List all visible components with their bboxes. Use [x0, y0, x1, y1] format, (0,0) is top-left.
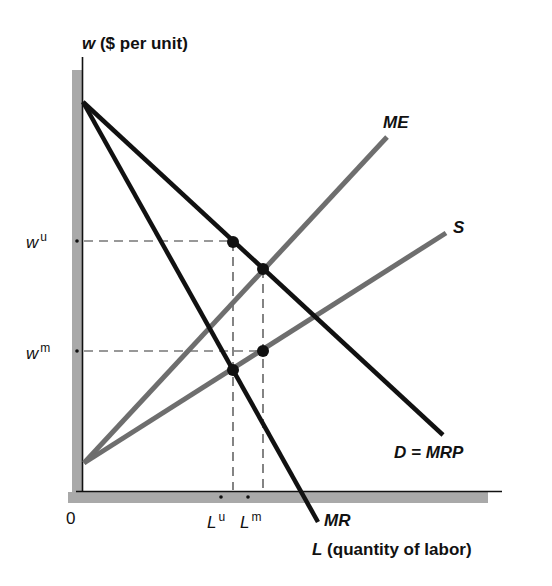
d-mrp-label: D = MRP	[394, 443, 463, 463]
mr-label: MR	[324, 511, 350, 531]
x-axis-shadow	[68, 492, 488, 503]
point-monopsony-wage	[257, 345, 269, 357]
y-axis-shadow	[72, 70, 82, 503]
x-axis-title: L (quantity of labor)	[312, 540, 472, 560]
point-union-wage	[227, 236, 239, 248]
y-axis-units: ($ per unit)	[95, 34, 188, 53]
s-label: S	[453, 218, 464, 238]
y-tick-wm: wm	[26, 341, 50, 364]
wu-base: w	[26, 233, 38, 252]
x-tick-lm: Lm	[240, 510, 261, 533]
y-axis-title: w ($ per unit)	[82, 34, 188, 54]
mr-curve	[83, 102, 318, 522]
chart-canvas	[0, 0, 552, 586]
wm-sup: m	[40, 341, 50, 355]
y-axis-var: w	[82, 34, 95, 53]
y-tick-wu: wu	[26, 230, 47, 253]
tick-dots	[75, 239, 250, 499]
point-mr-s	[227, 364, 239, 376]
wm-base: w	[26, 344, 38, 363]
point-mrp-me	[257, 263, 269, 275]
lu-sup: u	[218, 510, 225, 524]
lm-sup: m	[251, 510, 261, 524]
lm-base: L	[240, 513, 249, 532]
wu-sup: u	[40, 230, 47, 244]
x-axis-var: L	[312, 540, 322, 559]
lu-base: L	[207, 513, 216, 532]
x-tick-lu: Lu	[207, 510, 225, 533]
x-axis-units: (quantity of labor)	[322, 540, 471, 559]
origin-label: 0	[66, 509, 75, 529]
me-label: ME	[383, 113, 409, 133]
